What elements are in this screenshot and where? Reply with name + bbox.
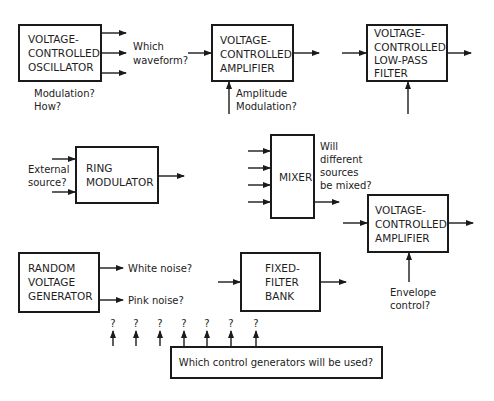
vca1-am-note-2: Modulation? xyxy=(236,101,297,112)
vca2-envelope-note-1: Envelope xyxy=(390,287,436,298)
control-question-6: ? xyxy=(228,318,233,329)
synthesizer-block-diagram: VOLTAGE- CONTROLLED OSCILLATOR Which wav… xyxy=(0,0,494,401)
ffb-label-2: FILTER xyxy=(265,276,299,288)
vco-modulation-note-2: How? xyxy=(34,101,61,112)
vcf-block: VOLTAGE- CONTROLLED LOW-PASS FILTER xyxy=(367,25,447,81)
control-question-4: ? xyxy=(181,318,186,329)
fixed-filter-bank-block: FIXED- FILTER BANK xyxy=(241,253,320,311)
rvg-label-1: RANDOM xyxy=(28,262,75,274)
vco-block: VOLTAGE- CONTROLLED OSCILLATOR xyxy=(19,25,101,81)
ffb-label-1: FIXED- xyxy=(265,262,300,274)
mixer-note-4: be mixed? xyxy=(320,180,372,191)
ring-label-1: RING xyxy=(86,162,112,174)
control-question-5: ? xyxy=(204,318,209,329)
mixer-note-2: different xyxy=(320,154,363,165)
ffb-label-3: BANK xyxy=(265,290,295,302)
control-question-7: ? xyxy=(253,318,258,329)
vcf-label-3: LOW-PASS xyxy=(374,54,428,66)
control-generators-label: Which control generators will be used? xyxy=(179,357,373,368)
vcf-label-1: VOLTAGE- xyxy=(374,27,425,39)
vcf-label-2: CONTROLLED xyxy=(374,41,446,53)
vca1-label-3: AMPLIFIER xyxy=(220,62,275,74)
random-voltage-generator-block: RANDOM VOLTAGE GENERATOR xyxy=(19,253,99,312)
vca2-label-2: CONTROLLED xyxy=(375,218,447,230)
vca1-label-2: CONTROLLED xyxy=(220,48,292,60)
control-question-2: ? xyxy=(133,318,138,329)
vca2-block: VOLTAGE- CONTROLLED AMPLIFIER xyxy=(368,195,448,252)
ring-external-note-1: External xyxy=(28,164,70,175)
ring-label-2: MODULATOR xyxy=(86,176,154,188)
control-question-3: ? xyxy=(157,318,162,329)
vco-waveform-note-2: waveform? xyxy=(133,55,188,66)
vca2-envelope-note-2: control? xyxy=(390,300,430,311)
vco-label-3: OSCILLATOR xyxy=(28,61,94,73)
vcf-label-4: FILTER xyxy=(374,67,408,79)
control-generators-block: Which control generators will be used? xyxy=(171,347,382,378)
vca2-label-3: AMPLIFIER xyxy=(375,232,430,244)
vca2-label-1: VOLTAGE- xyxy=(375,204,426,216)
control-output-arrows xyxy=(113,331,256,346)
vco-waveform-note-1: Which xyxy=(133,41,164,52)
ring-external-note-2: source? xyxy=(28,177,67,188)
vco-label-1: VOLTAGE- xyxy=(28,33,79,45)
vco-modulation-note-1: Modulation? xyxy=(34,88,95,99)
mixer-label: MIXER xyxy=(279,171,312,183)
mixer-block: MIXER xyxy=(271,135,314,218)
rvg-label-2: VOLTAGE xyxy=(28,276,75,288)
rvg-white-note: White noise? xyxy=(128,263,192,274)
vca1-am-note-1: Amplitude xyxy=(236,88,287,99)
rvg-pink-note: Pink noise? xyxy=(128,295,184,306)
mixer-note-3: sources xyxy=(320,167,358,178)
control-question-1: ? xyxy=(110,318,115,329)
vco-label-2: CONTROLLED xyxy=(28,47,100,59)
vca1-block: VOLTAGE- CONTROLLED AMPLIFIER xyxy=(212,25,293,81)
rvg-label-3: GENERATOR xyxy=(28,290,92,302)
vca1-label-1: VOLTAGE- xyxy=(220,34,271,46)
ring-modulator-block: RING MODULATOR xyxy=(76,147,158,203)
mixer-note-1: Will xyxy=(320,141,338,152)
